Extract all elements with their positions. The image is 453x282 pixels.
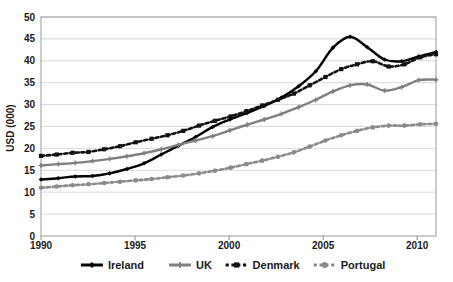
data-point xyxy=(402,62,406,66)
y-axis-title: USD (000) xyxy=(5,104,16,151)
x-tick-label: 2010 xyxy=(406,240,429,251)
data-point xyxy=(197,171,202,176)
data-point xyxy=(323,138,328,143)
x-tick-label: 2005 xyxy=(312,240,335,251)
data-point xyxy=(165,133,169,137)
data-point xyxy=(292,92,296,96)
data-point xyxy=(402,123,407,128)
data-point xyxy=(134,140,138,144)
chart-legend: IrelandUKDenmarkPortugal xyxy=(81,259,385,271)
y-tick-label: 10 xyxy=(24,187,36,198)
legend-label: Denmark xyxy=(253,259,301,271)
data-point xyxy=(55,152,59,156)
data-point xyxy=(418,122,423,127)
chart-canvas: 05101520253035404550 1990199520002005201… xyxy=(0,0,453,282)
legend-marker xyxy=(89,262,95,268)
line-chart: 05101520253035404550 1990199520002005201… xyxy=(0,0,453,282)
y-tick-label: 15 xyxy=(24,165,36,176)
data-point xyxy=(260,103,264,107)
legend-label: UK xyxy=(196,259,212,271)
x-tick-label: 1995 xyxy=(124,240,147,251)
data-point xyxy=(371,59,375,63)
data-point xyxy=(39,154,43,158)
y-axis-tick-labels: 05101520253035404550 xyxy=(24,12,36,242)
data-point xyxy=(165,175,170,180)
data-point xyxy=(434,52,438,56)
y-tick-label: 35 xyxy=(24,77,36,88)
legend-label: Portugal xyxy=(341,259,386,271)
data-point xyxy=(323,75,327,79)
data-point xyxy=(434,122,439,127)
data-point xyxy=(102,147,106,151)
y-tick-label: 45 xyxy=(24,33,36,44)
y-tick-label: 20 xyxy=(24,143,36,154)
y-tick-label: 5 xyxy=(29,209,35,220)
data-point xyxy=(244,162,249,167)
data-point xyxy=(339,67,343,71)
data-point xyxy=(355,129,360,134)
data-point xyxy=(71,151,75,155)
x-axis-tick-labels: 19901995200020052010 xyxy=(30,240,429,251)
data-point xyxy=(229,114,233,118)
data-point xyxy=(70,183,75,188)
data-point xyxy=(213,168,218,173)
legend-item-ireland[interactable]: Ireland xyxy=(81,259,144,271)
data-point xyxy=(118,144,122,148)
legend-item-denmark[interactable]: Denmark xyxy=(226,259,301,271)
legend-marker xyxy=(234,262,239,267)
data-point xyxy=(387,64,391,68)
data-point xyxy=(134,178,139,183)
data-point xyxy=(102,181,107,186)
y-tick-label: 30 xyxy=(24,99,36,110)
data-point xyxy=(307,144,312,149)
data-point xyxy=(86,182,91,187)
data-point xyxy=(276,154,281,159)
data-point xyxy=(86,150,90,154)
y-tick-label: 50 xyxy=(24,12,36,23)
data-point xyxy=(228,165,233,170)
data-point xyxy=(260,158,265,163)
data-point xyxy=(181,129,185,133)
legend-item-portugal[interactable]: Portugal xyxy=(314,259,386,271)
data-point xyxy=(39,186,44,191)
legend-marker xyxy=(322,262,328,268)
data-point xyxy=(339,133,344,138)
data-point xyxy=(149,177,154,182)
data-point xyxy=(386,123,391,128)
data-point xyxy=(292,150,297,155)
legend-label: Ireland xyxy=(108,259,144,271)
data-point xyxy=(418,55,422,59)
x-tick-label: 1990 xyxy=(30,240,53,251)
legend-marker xyxy=(177,262,183,268)
data-point xyxy=(118,179,123,184)
data-point xyxy=(55,184,60,189)
data-point xyxy=(213,119,217,123)
data-point xyxy=(150,137,154,141)
data-point xyxy=(355,62,359,66)
legend-item-uk[interactable]: UK xyxy=(169,259,212,271)
data-point xyxy=(197,124,201,128)
y-tick-label: 40 xyxy=(24,55,36,66)
data-point xyxy=(181,173,186,178)
y-tick-label: 25 xyxy=(24,121,36,132)
x-axis-tick-marks xyxy=(41,236,417,240)
data-point xyxy=(371,125,376,130)
data-point xyxy=(276,98,280,102)
x-tick-label: 2000 xyxy=(218,240,241,251)
data-point xyxy=(244,109,248,113)
data-point xyxy=(308,83,312,87)
